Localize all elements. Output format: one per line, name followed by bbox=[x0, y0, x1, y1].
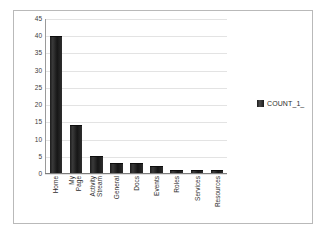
chart-screenshot: 051015202530354045 HomeMyPageActivityStr… bbox=[0, 0, 326, 238]
x-axis-label-resources: Resources bbox=[214, 176, 221, 207]
x-axis-label-line: General bbox=[113, 176, 120, 199]
legend-swatch-count-1 bbox=[257, 100, 264, 107]
x-axis-label-docs: Docs bbox=[134, 176, 141, 191]
plot-area: 051015202530354045 bbox=[45, 19, 227, 174]
x-axis-label-line: Services bbox=[194, 176, 201, 201]
x-label-slot: General bbox=[107, 175, 127, 230]
bar-slot bbox=[46, 19, 66, 173]
bar-slot bbox=[66, 19, 86, 173]
x-axis-label-line: Docs bbox=[134, 176, 141, 191]
x-label-slot: Home bbox=[46, 175, 66, 230]
legend-label-count-1: COUNT_1_ bbox=[267, 100, 304, 107]
x-label-slot: ActivityStream bbox=[86, 175, 106, 230]
x-label-slot: Roles bbox=[167, 175, 187, 230]
y-tick-label-25: 25 bbox=[35, 85, 42, 92]
y-tick-label-5: 5 bbox=[38, 154, 42, 161]
bar-slot bbox=[86, 19, 106, 173]
bar-slot bbox=[126, 19, 146, 173]
x-axis-label-line: Page bbox=[76, 176, 83, 191]
y-tick-label-10: 10 bbox=[35, 136, 42, 143]
y-tick-label-35: 35 bbox=[35, 50, 42, 57]
y-tick-label-0: 0 bbox=[38, 171, 42, 178]
bar-activity-stream[interactable] bbox=[90, 156, 102, 173]
x-axis-category-labels: HomeMyPageActivityStreamGeneralDocsEvent… bbox=[46, 175, 228, 230]
x-label-slot: MyPage bbox=[66, 175, 86, 230]
bar-slot bbox=[167, 19, 187, 173]
x-axis-label-my-page: MyPage bbox=[70, 176, 84, 191]
x-axis-line bbox=[45, 173, 227, 174]
chart-legend: COUNT_1_ bbox=[257, 100, 304, 107]
bar-series-count-1 bbox=[46, 19, 227, 173]
bar-slot bbox=[207, 19, 227, 173]
bar-my-page[interactable] bbox=[70, 125, 82, 173]
bar-slot bbox=[106, 19, 126, 173]
x-axis-label-home: Home bbox=[53, 176, 60, 193]
x-axis-label-line: Events bbox=[154, 176, 161, 196]
x-axis-label-services: Services bbox=[194, 176, 201, 201]
y-tick-label-20: 20 bbox=[35, 102, 42, 109]
x-label-slot: Services bbox=[188, 175, 208, 230]
bar-slot bbox=[187, 19, 207, 173]
bar-home[interactable] bbox=[50, 36, 62, 173]
x-axis-label-line: Stream bbox=[97, 176, 104, 197]
x-label-slot: Events bbox=[147, 175, 167, 230]
bar-resources[interactable] bbox=[211, 170, 223, 173]
bar-roles[interactable] bbox=[170, 170, 182, 173]
bar-slot bbox=[147, 19, 167, 173]
x-axis-label-roles: Roles bbox=[174, 176, 181, 193]
x-axis-label-line: Roles bbox=[174, 176, 181, 193]
chart-frame: 051015202530354045 HomeMyPageActivityStr… bbox=[13, 10, 313, 224]
y-tick-label-40: 40 bbox=[35, 33, 42, 40]
x-axis-label-line: Resources bbox=[214, 176, 221, 207]
x-axis-label-general: General bbox=[113, 176, 120, 199]
bar-services[interactable] bbox=[191, 170, 203, 173]
y-tick-label-30: 30 bbox=[35, 67, 42, 74]
bar-docs[interactable] bbox=[130, 163, 142, 173]
y-tick-label-15: 15 bbox=[35, 119, 42, 126]
x-axis-label-events: Events bbox=[154, 176, 161, 196]
bar-events[interactable] bbox=[150, 166, 162, 173]
x-label-slot: Resources bbox=[208, 175, 228, 230]
x-axis-label-line: Home bbox=[53, 176, 60, 193]
y-tick-label-45: 45 bbox=[35, 16, 42, 23]
x-label-slot: Docs bbox=[127, 175, 147, 230]
x-axis-label-activity-stream: ActivityStream bbox=[90, 176, 104, 197]
bar-general[interactable] bbox=[110, 163, 122, 173]
